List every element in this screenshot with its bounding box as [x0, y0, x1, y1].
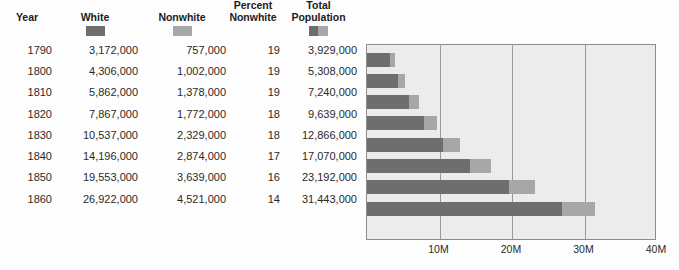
cell-total: 5,308,000 [280, 60, 357, 81]
cell-nonwhite: 1,772,000 [138, 103, 226, 124]
cell-total: 3,929,000 [280, 39, 357, 60]
population-table: Year White Nonwhite Percent Nonwhite Tot… [2, 0, 357, 209]
bar-row-1790 [367, 53, 657, 67]
bar-row-1820 [367, 116, 657, 130]
bar-segment-nonwhite-1810 [409, 95, 419, 109]
bar-segment-white-1800 [367, 74, 398, 88]
bar-segment-nonwhite-1790 [390, 53, 395, 67]
table-body: 17903,172,000757,000193,929,00018004,306… [2, 39, 357, 209]
plot-area [366, 44, 656, 240]
x-axis-tick-labels: 10M20M30M40M [360, 243, 679, 263]
x-tick-label-20M: 20M [501, 243, 521, 255]
bar-row-1840 [367, 159, 657, 173]
cell-percent-nonwhite: 16 [226, 167, 280, 188]
bar-segment-white-1860 [367, 202, 562, 216]
table-row: 18207,867,0001,772,000189,639,000 [2, 103, 357, 124]
column-header-percent-nonwhite-line1: Percent [234, 0, 273, 11]
legend-swatch-cell-nonwhite [138, 25, 226, 39]
cell-year: 1790 [2, 39, 52, 60]
nonwhite-series-swatch-icon [173, 26, 192, 36]
cell-total: 23,192,000 [280, 167, 357, 188]
data-table-panel: Year White Nonwhite Percent Nonwhite Tot… [0, 0, 360, 270]
cell-white: 19,553,000 [52, 167, 138, 188]
cell-percent-nonwhite: 19 [226, 39, 280, 60]
bar-segment-nonwhite-1860 [562, 202, 595, 216]
cell-percent-nonwhite: 19 [226, 60, 280, 81]
cell-year: 1850 [2, 167, 52, 188]
bar-segment-white-1790 [367, 53, 390, 67]
cell-nonwhite: 4,521,000 [138, 188, 226, 209]
cell-year: 1830 [2, 124, 52, 145]
cell-percent-nonwhite: 14 [226, 188, 280, 209]
cell-nonwhite: 1,378,000 [138, 82, 226, 103]
stacked-bar-chart-panel: 10M20M30M40M [360, 0, 679, 270]
table-row: 17903,172,000757,000193,929,000 [2, 39, 357, 60]
table-row: 18004,306,0001,002,000195,308,000 [2, 60, 357, 81]
cell-year: 1800 [2, 60, 52, 81]
legend-swatch-cell-year [2, 25, 52, 39]
cell-percent-nonwhite: 17 [226, 145, 280, 166]
bar-segment-nonwhite-1800 [398, 74, 405, 88]
bar-row-1860 [367, 202, 657, 216]
cell-nonwhite: 2,874,000 [138, 145, 226, 166]
cell-year: 1860 [2, 188, 52, 209]
cell-percent-nonwhite: 19 [226, 82, 280, 103]
bar-segment-nonwhite-1830 [443, 138, 460, 152]
total-series-swatch-icon [309, 26, 328, 36]
cell-white: 3,172,000 [52, 39, 138, 60]
legend-swatch-row [2, 25, 357, 39]
x-tick-label-40M: 40M [646, 243, 666, 255]
cell-nonwhite: 757,000 [138, 39, 226, 60]
bar-segment-white-1830 [367, 138, 443, 152]
bar-segment-white-1810 [367, 95, 409, 109]
cell-white: 14,196,000 [52, 145, 138, 166]
column-header-year: Year [2, 0, 52, 25]
table-row: 184014,196,0002,874,0001717,070,000 [2, 145, 357, 166]
column-header-percent-nonwhite-line2: Nonwhite [229, 11, 276, 23]
cell-nonwhite: 2,329,000 [138, 124, 226, 145]
cell-white: 26,922,000 [52, 188, 138, 209]
legend-swatch-cell-total [280, 25, 357, 39]
cell-total: 7,240,000 [280, 82, 357, 103]
table-row: 18105,862,0001,378,000197,240,000 [2, 82, 357, 103]
column-header-total-population-line1: Total [306, 0, 330, 11]
white-series-swatch-icon [86, 26, 105, 36]
cell-year: 1810 [2, 82, 52, 103]
bar-segment-nonwhite-1850 [509, 180, 535, 194]
cell-white: 7,867,000 [52, 103, 138, 124]
bar-segment-white-1820 [367, 116, 424, 130]
table-header-row: Year White Nonwhite Percent Nonwhite Tot… [2, 0, 357, 25]
cell-total: 17,070,000 [280, 145, 357, 166]
bar-segment-nonwhite-1820 [424, 116, 437, 130]
bar-row-1850 [367, 180, 657, 194]
population-table-and-chart: Year White Nonwhite Percent Nonwhite Tot… [0, 0, 679, 270]
cell-percent-nonwhite: 18 [226, 103, 280, 124]
table-row: 185019,553,0003,639,0001623,192,000 [2, 167, 357, 188]
cell-nonwhite: 3,639,000 [138, 167, 226, 188]
bar-row-1810 [367, 95, 657, 109]
legend-swatch-cell-percent [226, 25, 280, 39]
bar-row-1800 [367, 74, 657, 88]
legend-swatch-cell-white [52, 25, 138, 39]
column-header-total-population-line2: Population [291, 11, 345, 23]
cell-white: 10,537,000 [52, 124, 138, 145]
table-row: 183010,537,0002,329,0001812,866,000 [2, 124, 357, 145]
bar-row-1830 [367, 138, 657, 152]
bar-segment-white-1840 [367, 159, 470, 173]
bar-segment-nonwhite-1840 [470, 159, 491, 173]
cell-total: 9,639,000 [280, 103, 357, 124]
x-tick-label-10M: 10M [428, 243, 448, 255]
x-tick-label-30M: 30M [573, 243, 593, 255]
cell-nonwhite: 1,002,000 [138, 60, 226, 81]
table-row: 186026,922,0004,521,0001431,443,000 [2, 188, 357, 209]
cell-percent-nonwhite: 18 [226, 124, 280, 145]
cell-white: 5,862,000 [52, 82, 138, 103]
table-header: Year White Nonwhite Percent Nonwhite Tot… [2, 0, 357, 39]
column-header-white: White [52, 0, 138, 25]
cell-year: 1840 [2, 145, 52, 166]
cell-total: 31,443,000 [280, 188, 357, 209]
column-header-nonwhite: Nonwhite [138, 0, 226, 25]
column-header-total-population: Total Population [280, 0, 357, 25]
cell-total: 12,866,000 [280, 124, 357, 145]
bar-segment-white-1850 [367, 180, 509, 194]
